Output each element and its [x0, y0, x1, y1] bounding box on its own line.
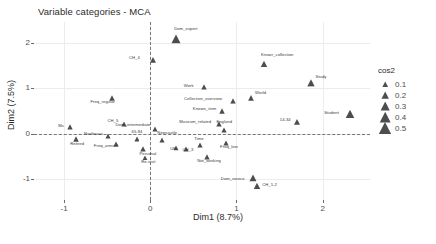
legend-marker-icon	[378, 101, 392, 111]
data-point-label: Freq_annual	[94, 144, 118, 148]
data-point-label: Time	[194, 137, 203, 141]
y-tick-label: -1	[16, 174, 30, 183]
legend-item-label: 0.2	[395, 91, 406, 100]
x-tick-mark	[323, 200, 324, 203]
data-point-label: World	[255, 91, 266, 95]
legend-item-label: 0.3	[395, 102, 406, 111]
data-point	[260, 61, 267, 68]
data-point-label: Knowr_collection	[261, 53, 293, 57]
data-point	[201, 84, 207, 90]
y-tick-mark	[31, 134, 34, 135]
data-point-label: England	[216, 120, 232, 124]
data-point-label: CH_1-2	[262, 183, 277, 187]
y-tick-label: 2	[16, 38, 30, 47]
x-tick-mark	[236, 200, 237, 203]
plot-area: Dom_expertCH_4WorkKnowr_collectionStudyS…	[34, 22, 370, 200]
data-point-label: Freq_regular	[90, 100, 115, 104]
legend-marker-icon	[378, 81, 392, 87]
data-point	[150, 57, 157, 64]
data-point-label: CH_4	[129, 56, 140, 60]
data-point-label: Known_item	[193, 107, 217, 111]
grid-line-vertical	[236, 22, 237, 200]
data-point-label: Collection_overview	[184, 97, 222, 101]
data-point-label: Not_working	[197, 159, 221, 163]
data-point	[221, 127, 227, 133]
legend-item: 0.1	[378, 79, 434, 90]
legend: cos2 0.10.20.30.40.5	[378, 66, 434, 134]
data-point-label: UK	[170, 147, 176, 151]
x-axis-label: Dim1 (8.7%)	[0, 212, 436, 222]
legend-marker-icon	[378, 91, 392, 99]
grid-line-horizontal	[34, 43, 370, 44]
data-point-label: 65-84	[132, 130, 143, 134]
data-point	[253, 182, 261, 190]
x-tick-mark	[64, 200, 65, 203]
legend-marker-icon	[378, 121, 392, 135]
data-point	[159, 137, 165, 143]
legend-item-label: 0.5	[395, 124, 406, 133]
data-point	[171, 34, 181, 44]
data-point-label: Retired	[70, 142, 84, 146]
data-point	[345, 109, 355, 119]
y-axis-label: Dim2 (7.5%)	[6, 16, 16, 194]
data-point	[248, 95, 255, 102]
data-point-label: Ms	[58, 124, 64, 128]
y-tick-mark	[31, 88, 34, 89]
data-point-label: Work	[184, 84, 194, 88]
data-point-label: Museum_related	[179, 120, 211, 124]
data-point	[219, 108, 225, 114]
legend-title: cos2	[378, 66, 434, 75]
y-tick-label: 0	[16, 129, 30, 138]
zero-line-vertical	[150, 22, 151, 200]
data-point-label: Study	[316, 75, 327, 79]
data-point	[134, 136, 140, 142]
data-point-label: Dom_intermediate	[115, 123, 150, 127]
data-point	[249, 174, 257, 182]
data-point-label: Dom_expert	[174, 27, 197, 31]
grid-line-horizontal	[34, 179, 370, 180]
y-tick-label: 1	[16, 83, 30, 92]
x-tick-mark	[150, 200, 151, 203]
data-point	[67, 124, 73, 130]
legend-item-label: 0.4	[395, 113, 406, 122]
data-point	[105, 133, 111, 139]
data-point	[293, 119, 300, 126]
data-point-label: Student	[324, 111, 339, 115]
legend-item: 0.2	[378, 90, 434, 101]
y-tick-mark	[31, 179, 34, 180]
legend-item: 0.5	[378, 123, 434, 134]
data-point-label: Northeast	[84, 132, 103, 136]
data-point-label: Re-visit	[141, 160, 155, 164]
data-point-label: Newcastle	[157, 131, 177, 135]
mca-scatter-chart: Variable categories - MCA Dom_expertCH_4…	[0, 0, 436, 244]
legend-item-label: 0.1	[395, 80, 406, 89]
data-point	[230, 97, 236, 103]
data-point-label: 14-34	[280, 118, 291, 122]
data-point-label: Dom_novice	[221, 177, 245, 181]
data-point	[197, 142, 203, 148]
grid-line-vertical	[64, 22, 65, 200]
page-title: Variable categories - MCA	[38, 6, 151, 17]
y-tick-mark	[31, 43, 34, 44]
data-point-label: Freq_low	[220, 145, 238, 149]
data-point	[306, 78, 315, 87]
legend-rows: 0.10.20.30.40.5	[378, 79, 434, 134]
data-point-label: CH_3	[182, 148, 193, 152]
plot-inner: Dom_expertCH_4WorkKnowr_collectionStudyS…	[34, 22, 370, 200]
